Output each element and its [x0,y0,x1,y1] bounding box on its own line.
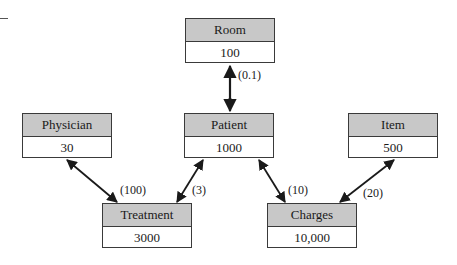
entity-name: Charges [268,204,356,227]
entity-count: 3000 [103,227,191,248]
entity-count: 10,000 [268,227,356,248]
entity-name: Physician [23,114,111,137]
link-physician-treatment [67,160,117,202]
label-patient-treatment: (3) [192,183,206,197]
entity-count: 1000 [185,137,273,158]
entity-treatment: Treatment 3000 [102,203,192,248]
entity-name: Room [186,19,274,42]
entity-count: 100 [186,42,274,63]
label-physician-treatment: (100) [120,183,146,197]
label-item-charges: (20) [363,186,383,200]
entity-count: 30 [23,137,111,158]
label-room-patient: (0.1) [238,68,261,82]
entity-name: Item [349,114,437,137]
entity-count: 500 [349,137,437,158]
entity-item: Item 500 [348,113,438,158]
entity-physician: Physician 30 [22,113,112,158]
er-diagram: Room 100 Physician 30 Patient 1000 Item … [0,0,457,265]
entity-name: Treatment [103,204,191,227]
label-patient-charges: (10) [288,183,308,197]
link-patient-charges [259,160,285,202]
entity-room: Room 100 [185,18,275,63]
entity-patient: Patient 1000 [184,113,274,158]
entity-name: Patient [185,114,273,137]
entity-charges: Charges 10,000 [267,203,357,248]
link-room-patient [227,66,233,111]
